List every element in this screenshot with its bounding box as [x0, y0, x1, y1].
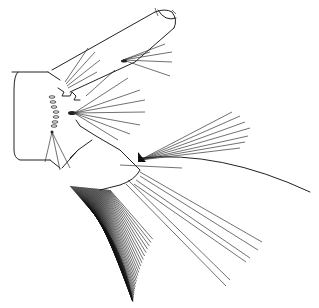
illustration-canvas	[0, 0, 319, 308]
appendage-drawing	[0, 0, 319, 308]
upper-ramus	[52, 8, 176, 96]
basal-segment	[12, 72, 60, 168]
setal-fan	[70, 186, 153, 301]
endite-lobes	[49, 78, 145, 140]
